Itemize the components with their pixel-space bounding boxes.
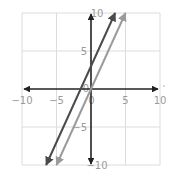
y-tick-label: 10 [91, 8, 104, 19]
x-tick-label: 5 [122, 95, 128, 106]
y-tick-label: −10 [86, 160, 107, 171]
y-tick-label: 5 [81, 46, 87, 57]
x-tick-label: −10 [11, 95, 32, 106]
x-tick-label: −5 [49, 95, 64, 106]
x-tick-label: 10 [154, 95, 167, 106]
coordinate-plane: −10−50510105−5−100 [0, 0, 171, 178]
stray-dot [163, 85, 165, 87]
